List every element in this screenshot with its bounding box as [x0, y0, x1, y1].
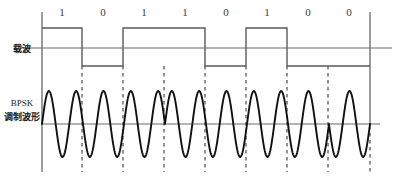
bit-label-4: 0 [223, 6, 229, 18]
bit-label-2: 1 [141, 6, 147, 18]
carrier-label: 载波 [13, 43, 32, 54]
bit-label-5: 1 [264, 6, 270, 18]
bit-label-0: 1 [59, 6, 65, 18]
bpsk-label-line2: 调制波形 [4, 111, 40, 122]
bit-label-3: 1 [182, 6, 188, 18]
bpsk-label-line1: BPSK [11, 98, 34, 108]
bit-label-6: 0 [305, 6, 311, 18]
waveform-svg: 1 0 1 1 0 1 0 0 载波 BPSK 调制波形 [0, 0, 395, 189]
bit-label-7: 0 [346, 6, 352, 18]
bit-labels-row: 1 0 1 1 0 1 0 0 [59, 6, 352, 18]
bpsk-waveform-figure: 1 0 1 1 0 1 0 0 载波 BPSK 调制波形 [0, 0, 395, 189]
bit-label-1: 0 [100, 6, 106, 18]
square-wave-path [42, 28, 370, 66]
